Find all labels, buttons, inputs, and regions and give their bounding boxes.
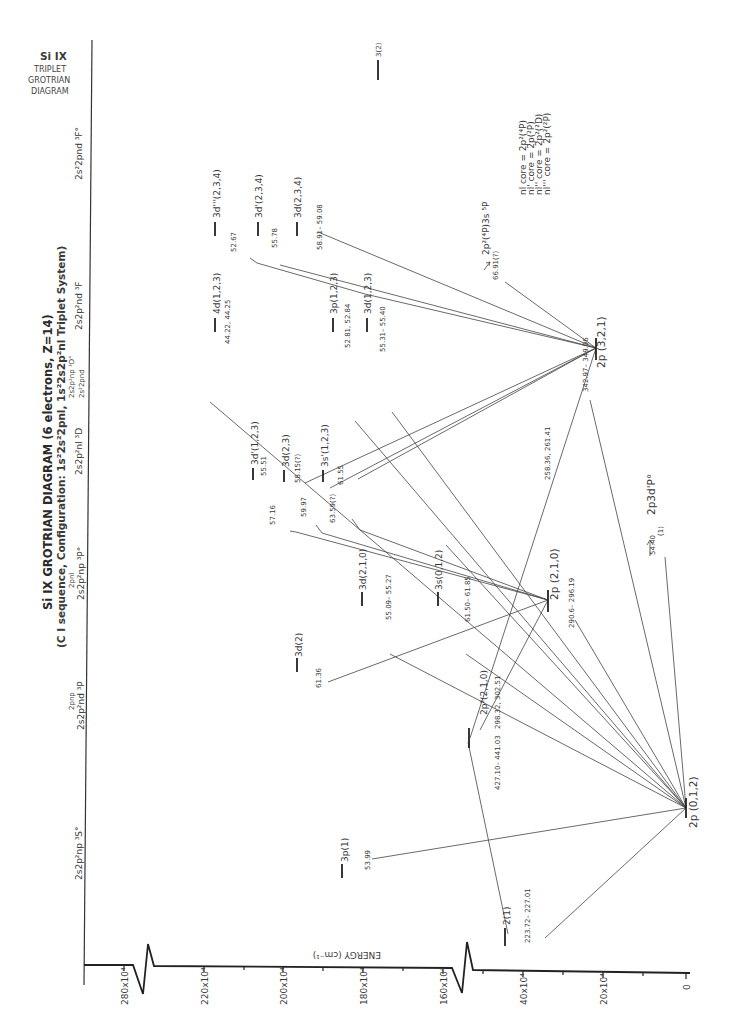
wl-3p1: 53.99 <box>364 850 372 870</box>
wl-3dp234: 55.78 <box>271 228 279 248</box>
wl-3dp123b: 57.16 <box>269 504 277 525</box>
core-legend: nl core = 2p²(⁴P) nl' core = 2p(²P) nl''… <box>518 113 552 195</box>
wl-2p3d-sub: (1) <box>657 526 665 536</box>
label-2p210: 2p (2,1,0) <box>548 548 560 600</box>
wl-4d: 44.22, 44.25 <box>224 299 232 344</box>
label-3d123: 3d(1,2,3) <box>363 273 373 314</box>
wl-2p2: 298.32, 302.51 <box>494 676 502 729</box>
transition-3dp234-2p321 <box>280 265 596 348</box>
transition-3d234-2p321 <box>318 232 596 348</box>
corner-title: Si IX TRIPLET GROTRIAN DIAGRAM <box>28 50 70 96</box>
column-label-P-odd: 2s2p²np ³P° <box>76 547 86 600</box>
transition-3d2-2p210 <box>328 600 548 682</box>
label-3_2: 3(2) <box>375 42 383 57</box>
energy-levels <box>215 60 686 946</box>
energy-axis: 280x10⁴ 220x10⁴ 200x10⁴ 180x10⁴ 160x10⁴ … <box>84 942 692 1005</box>
legend-line-4: nl''' core = 2p²(²P) <box>542 113 552 195</box>
axis-label: ENERGY (cm⁻¹) <box>313 950 381 960</box>
transition-3dp123-2p210 <box>290 531 548 600</box>
column-label-D-odd: 2s²2pnd <box>78 369 86 398</box>
corner-ion: Si IX <box>40 50 67 62</box>
label-3d210: 3d(2,1,0) <box>358 549 368 590</box>
title-line1: Si IX GROTRIAN DIAGRAM (6 electrons, Z=1… <box>41 314 55 610</box>
wl-2_1: 223.72– 227.01 <box>524 888 532 943</box>
level-labels: 2p (0,1,2) 2p (2,1,0) 2p (3,2,1) 2p²(2,1… <box>212 42 699 925</box>
column-label-P-odd-top: 2pnl <box>68 573 76 588</box>
wl-3sp123a: 61.55 <box>337 465 345 485</box>
wl-3d2: 61.36 <box>315 667 323 688</box>
label-3dp234: 3d'(2,3,4) <box>254 174 264 218</box>
wl-3d210: 55.09– 55.27 <box>385 574 393 620</box>
label-3d2: 3d(2) <box>294 633 304 657</box>
label-3sp123: 3s'(1,2,3) <box>320 424 330 467</box>
wl-3d123: 55.31– 55.40 <box>379 306 387 352</box>
column-labels: 2s²2pnd ³F° 2s2p²nd ³F 2s2p²np ³D° 2s²2p… <box>68 127 86 880</box>
wl-3sp123b: 63.59(?) <box>329 494 337 523</box>
label-2_1: 2(1) <box>502 907 512 925</box>
wl-258: 258.36, 261.41 <box>544 427 552 480</box>
column-label-P-even-top: 2pnp <box>68 692 76 710</box>
grotrian-diagram: Si IX TRIPLET GROTRIAN DIAGRAM 2s²2pnd ³… <box>0 0 731 1009</box>
transition-2p321-2p012 <box>590 400 686 808</box>
label-3d234: 3d(2,3,4) <box>293 177 303 218</box>
transition-lines <box>210 232 686 938</box>
label-2p012: 2p (0,1,2) <box>687 776 699 828</box>
wl-3dppp: 52.67 <box>230 232 238 252</box>
corner-line3: DIAGRAM <box>31 87 69 96</box>
wavelength-labels: 53.99 223.72– 227.01 427.10– 441.03 298.… <box>224 204 665 943</box>
column-axis-line <box>84 40 92 985</box>
tick-label-200: 200x10⁴ <box>279 967 289 1005</box>
wl-2p2-2_1: 427.10– 441.03 <box>494 735 502 790</box>
label-3s5p: 2p²(⁴P)3s ⁵P <box>481 201 491 255</box>
label-2p321: 2p (3,2,1) <box>595 316 607 368</box>
wl-3s012: 61.50– 61.85 <box>464 576 472 622</box>
transition-3p123-2p012 <box>355 421 686 808</box>
label-3s012: 3s(0,1,2) <box>434 550 444 590</box>
label-2p3dp: 2p3d'P° <box>645 474 657 515</box>
transition-3d23-2p210 <box>316 525 548 600</box>
label-3p123: 3p(1,2,3) <box>329 273 339 314</box>
label-3d23: 3d(2,3) <box>281 434 291 467</box>
arrow-5P-icon <box>484 262 490 270</box>
wl-3d23b: 59.97 <box>300 497 308 517</box>
wl-3d23a: 58.15(?) <box>294 454 302 483</box>
transition-2p3d-2p012 <box>665 557 686 808</box>
column-label-D-even: 2s2p²nl ³D <box>74 428 84 475</box>
main-title: Si IX GROTRIAN DIAGRAM (6 electrons, Z=1… <box>41 246 67 648</box>
transition-3d23-2p321 <box>330 348 596 488</box>
column-label-D-odd-top: 2s2p²np ³D° <box>68 355 76 398</box>
wl-5p: 66.91(?) <box>492 251 500 280</box>
wl-3d234: 58.91– 59.08 <box>316 204 324 250</box>
column-label-S-odd: 2s2p²np ³S° <box>74 826 84 880</box>
corner-line2: GROTRIAN <box>28 76 70 85</box>
wl-2p321: 342.97– 349.96 <box>582 337 590 392</box>
tick-label-180: 180x10⁴ <box>359 967 369 1005</box>
label-2p2-210: 2p²(2,1,0) <box>479 670 489 715</box>
tick-label-220: 220x10⁴ <box>200 967 210 1005</box>
wl-2p3d: 54.40 <box>649 535 657 555</box>
column-label-P-even: 2s2p²nd ³P <box>76 681 86 730</box>
tick-label-40: 40x10⁴ <box>519 973 529 1005</box>
label-3p1: 3p(1) <box>340 838 350 862</box>
transition-3dp123-2p321 <box>305 348 596 483</box>
column-label-F-even: 2s2p²nd ³F <box>74 281 84 330</box>
wl-3p123: 52.81, 52.84 <box>344 303 352 348</box>
column-label-F-odd: 2s²2pnd ³F° <box>74 127 84 180</box>
label-3dppp234: 3d'''(2,3,4) <box>212 169 222 218</box>
transition-2p210-2p012 <box>575 620 686 808</box>
tick-label-160: 160x10⁴ <box>439 967 449 1005</box>
label-4d123: 4d(1,2,3) <box>212 273 222 314</box>
transition-3d210-2p012 <box>390 654 686 808</box>
wl-2p210: 290.6– 296.19 <box>568 578 576 628</box>
corner-line1: TRIPLET <box>33 65 66 74</box>
grotrian-diagram-page: Si IX TRIPLET GROTRIAN DIAGRAM 2s²2pnd ³… <box>0 0 731 1009</box>
tick-label-280: 280x10⁴ <box>120 967 130 1005</box>
tick-label-0: 0 <box>682 984 692 990</box>
title-line2: (C I sequence, Configuration: 1s²2s²2pnl… <box>55 246 67 648</box>
wl-3dp123a: 55.51 <box>260 456 268 476</box>
label-3dp123: 3d'(1,2,3) <box>250 421 260 465</box>
tick-label-20: 20x10⁴ <box>599 973 609 1005</box>
transition-3d123-2p012 <box>392 412 686 808</box>
